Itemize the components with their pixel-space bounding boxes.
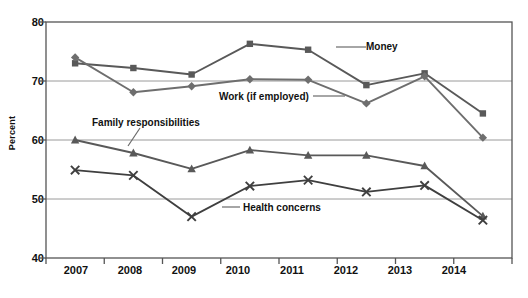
- line-chart: Percent 80 70 60 50 40 2007 2008 2009 20…: [0, 0, 528, 298]
- axis-ticks: [40, 22, 512, 264]
- plot-area: [0, 0, 528, 298]
- data-series: [71, 41, 487, 225]
